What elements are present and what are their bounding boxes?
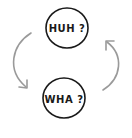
node-label-top: HUH ? (49, 23, 86, 34)
node-label-bottom: WHA ? (45, 94, 84, 105)
arrow-right-bottom-to-top-icon (103, 41, 119, 90)
arrow-left-top-to-bottom-icon (14, 33, 31, 88)
diagram-canvas (0, 0, 132, 138)
cycle-diagram: HUH ? WHA ? (0, 0, 132, 138)
